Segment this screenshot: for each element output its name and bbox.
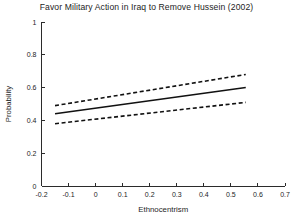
x-tick-label: 0.3 xyxy=(172,191,182,198)
chart-figure: Favor Military Action in Iraq to Remove … xyxy=(0,0,293,221)
y-tick-label: 1 xyxy=(33,19,37,26)
x-axis-ticks: -0.2-0.100.10.20.30.40.50.60.7 xyxy=(35,183,290,199)
data-series-group xyxy=(55,74,246,123)
x-tick-label: 0.4 xyxy=(199,191,209,198)
x-tick-label: 0.2 xyxy=(145,191,155,198)
x-tick-label: -0.2 xyxy=(35,191,47,198)
x-tick-label: 0.7 xyxy=(280,191,290,198)
x-tick-label: 0.5 xyxy=(226,191,236,198)
x-tick-label: 0 xyxy=(94,191,98,198)
y-axis-ticks: 00.20.40.60.81 xyxy=(27,19,45,190)
y-tick-label: 0 xyxy=(33,183,37,190)
x-tick-label: -0.1 xyxy=(63,191,75,198)
y-axis-label: Probability xyxy=(4,86,13,123)
x-tick-label: 0.6 xyxy=(253,191,263,198)
y-tick-label: 0.2 xyxy=(27,150,37,157)
y-tick-label: 0.8 xyxy=(27,51,37,58)
y-tick-label: 0.6 xyxy=(27,84,37,91)
plot-area: -0.2-0.100.10.20.30.40.50.60.7 00.20.40.… xyxy=(0,0,293,221)
series-line xyxy=(55,102,246,123)
y-tick-label: 0.4 xyxy=(27,117,37,124)
x-axis-label: Ethnocentrism xyxy=(138,205,188,214)
x-tick-label: 0.1 xyxy=(118,191,128,198)
